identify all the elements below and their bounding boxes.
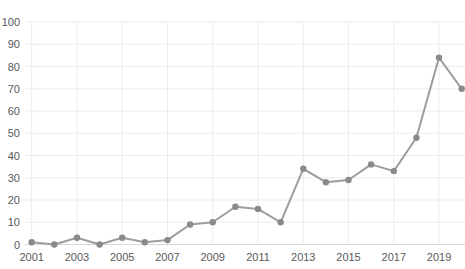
data-point-marker bbox=[74, 235, 80, 241]
data-point-marker bbox=[277, 219, 283, 225]
data-point-marker bbox=[391, 168, 397, 174]
y-axis-tick-label: 80 bbox=[8, 61, 20, 73]
data-point-marker bbox=[300, 166, 306, 172]
data-point-marker bbox=[232, 204, 238, 210]
data-point-marker bbox=[368, 161, 374, 167]
series-line bbox=[32, 58, 462, 245]
data-point-marker bbox=[459, 86, 465, 92]
data-point-marker bbox=[210, 219, 216, 225]
y-axis-tick-label: 100 bbox=[2, 16, 20, 28]
data-point-marker bbox=[413, 135, 419, 141]
x-axis-tick-label: 2005 bbox=[110, 251, 134, 263]
y-axis-tick-label: 60 bbox=[8, 105, 20, 117]
data-point-marker bbox=[119, 235, 125, 241]
data-point-marker bbox=[142, 239, 148, 245]
chart-canvas: 2001200320052007200920112013201520172019… bbox=[0, 0, 465, 269]
y-axis-tick-label: 50 bbox=[8, 127, 20, 139]
data-point-marker bbox=[323, 179, 329, 185]
x-axis-tick-label: 2019 bbox=[427, 251, 451, 263]
y-axis-tick-label: 10 bbox=[8, 216, 20, 228]
data-point-marker bbox=[345, 177, 351, 183]
data-point-marker bbox=[51, 241, 57, 247]
x-axis-tick-label: 2007 bbox=[155, 251, 179, 263]
x-axis-tick-label: 2013 bbox=[291, 251, 315, 263]
x-axis-tick-label: 2017 bbox=[382, 251, 406, 263]
x-axis-tick-label: 2011 bbox=[246, 251, 270, 263]
data-point-marker bbox=[164, 237, 170, 243]
data-point-marker bbox=[29, 239, 35, 245]
y-axis-tick-label: 40 bbox=[8, 150, 20, 162]
data-point-marker bbox=[255, 206, 261, 212]
y-axis-tick-label: 90 bbox=[8, 38, 20, 50]
y-axis-tick-label: 0 bbox=[14, 239, 20, 251]
x-axis-tick-label: 2003 bbox=[65, 251, 89, 263]
y-axis-tick-label: 70 bbox=[8, 83, 20, 95]
data-point-marker bbox=[436, 54, 442, 60]
y-axis-tick-label: 20 bbox=[8, 194, 20, 206]
x-axis-tick-label: 2009 bbox=[200, 251, 224, 263]
x-axis-tick-label: 2015 bbox=[336, 251, 360, 263]
data-point-marker bbox=[96, 241, 102, 247]
data-point-marker bbox=[187, 221, 193, 227]
line-chart: 2001200320052007200920112013201520172019… bbox=[0, 0, 465, 269]
x-axis-tick-label: 2001 bbox=[19, 251, 43, 263]
y-axis-tick-label: 30 bbox=[8, 172, 20, 184]
